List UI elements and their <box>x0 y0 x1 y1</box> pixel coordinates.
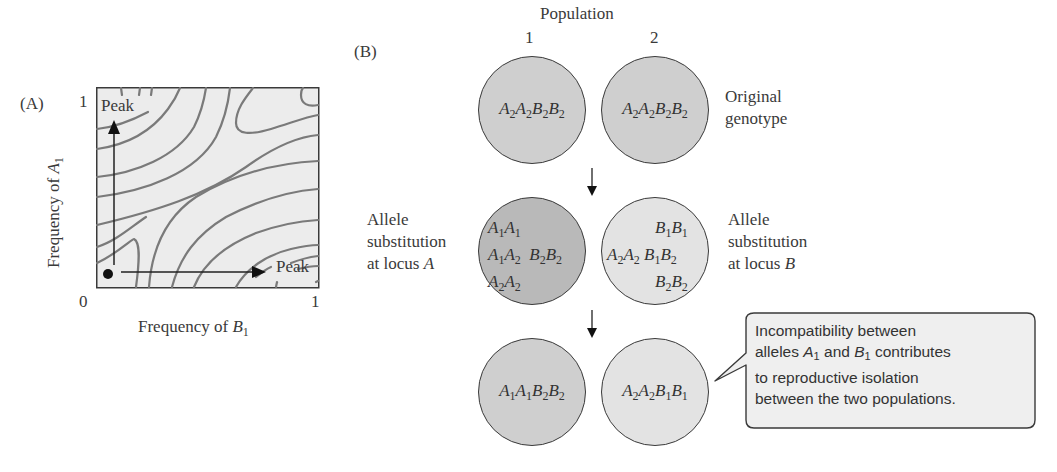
peak-label-top: Peak <box>101 96 134 116</box>
x-axis-title: Frequency of B1 <box>138 317 249 340</box>
population-2-label: 2 <box>650 28 659 48</box>
pop2-original-genotype: A2A2B2B2 <box>622 99 688 122</box>
allele-substitution-a-label: Allele substitution at locus A <box>367 209 446 275</box>
pop1-genotypes: A1A1 A1A2 B2B2 A2A2 <box>488 217 562 298</box>
population-header: Population <box>540 4 614 24</box>
start-point-marker <box>103 269 113 279</box>
x-axis-tick-min: 0 <box>79 292 88 312</box>
pop2-substitution-circle: B1B1 A2A2 B1B2 B2B2 <box>601 197 709 305</box>
pop1-original-circle: A2A2B2B2 <box>478 56 586 164</box>
pop1-original-genotype: A2A2B2B2 <box>499 99 565 122</box>
pop2-result-circle: A2A2B1B1 <box>601 338 709 446</box>
pop2-result-genotype: A2A2B1B1 <box>622 381 688 404</box>
x-axis-tick-max: 1 <box>311 292 320 312</box>
peak-label-right: Peak <box>276 257 309 277</box>
y-axis-tick-max: 1 <box>79 92 88 112</box>
pop1-result-circle: A1A1B2B2 <box>478 338 586 446</box>
arrow-down-icon <box>586 168 598 198</box>
pop1-substitution-circle: A1A1 A1A2 B2B2 A2A2 <box>478 197 586 305</box>
pop2-original-circle: A2A2B2B2 <box>601 56 709 164</box>
panel-a-label: (A) <box>20 94 44 114</box>
panel-b-label: (B) <box>354 42 377 62</box>
y-axis-title: Frequency of A1 <box>44 157 67 268</box>
pop2-genotypes: B1B1 A2A2 B1B2 B2B2 <box>607 217 688 298</box>
population-1-label: 1 <box>525 28 534 48</box>
callout-text: Incompatibility between alleles A1 and B… <box>755 320 956 409</box>
original-genotype-label: Original genotype <box>725 86 787 130</box>
pop1-result-genotype: A1A1B2B2 <box>499 381 565 404</box>
allele-substitution-b-label: Allele substitution at locus B <box>728 209 807 275</box>
arrow-down-icon <box>586 310 598 340</box>
